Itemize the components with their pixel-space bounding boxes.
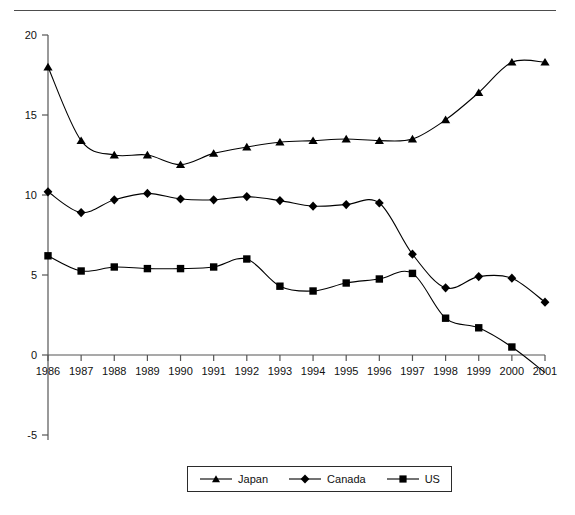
series-line-canada (48, 192, 545, 302)
data-point-marker (343, 279, 350, 286)
svg-text:1998: 1998 (433, 365, 457, 377)
data-point-marker (441, 116, 450, 124)
svg-text:1997: 1997 (400, 365, 424, 377)
svg-text:1986: 1986 (36, 365, 60, 377)
chart-figure: -505101520 19861987198819891990199119921… (0, 0, 575, 515)
data-point-marker (143, 189, 152, 198)
series-canada (44, 187, 550, 307)
svg-text:20: 20 (25, 29, 37, 41)
data-point-marker (441, 283, 450, 292)
data-point-marker (176, 194, 185, 203)
svg-text:0: 0 (31, 349, 37, 361)
line-chart-plot: -505101520 19861987198819891990199119921… (0, 0, 575, 515)
svg-text:1989: 1989 (135, 365, 159, 377)
x-axis-tick-labels: 1986198719881989199019911992199319941995… (36, 365, 557, 377)
data-series-group (43, 58, 549, 373)
diamond-marker-icon (288, 473, 322, 485)
svg-text:2000: 2000 (500, 365, 524, 377)
data-point-marker (409, 270, 416, 277)
svg-text:1993: 1993 (268, 365, 292, 377)
data-point-marker (442, 315, 449, 322)
data-point-marker (309, 202, 318, 211)
data-point-marker (242, 192, 251, 201)
legend-entry-japan: Japan (199, 473, 268, 485)
data-point-marker (77, 267, 84, 274)
data-point-marker (77, 208, 86, 217)
data-point-marker (209, 195, 218, 204)
data-point-marker (110, 195, 119, 204)
svg-text:2001: 2001 (533, 365, 557, 377)
data-point-marker (77, 136, 86, 144)
data-point-marker (44, 252, 51, 259)
legend-label-canada: Canada (327, 473, 366, 485)
data-point-marker (177, 265, 184, 272)
svg-text:5: 5 (31, 269, 37, 281)
data-point-marker (507, 274, 516, 283)
svg-text:1987: 1987 (69, 365, 93, 377)
svg-text:1995: 1995 (334, 365, 358, 377)
data-point-marker (507, 58, 516, 66)
series-line-japan (48, 60, 545, 165)
svg-text:1992: 1992 (235, 365, 259, 377)
triangle-marker-icon (199, 473, 233, 485)
legend-entry-us: US (386, 473, 440, 485)
svg-text:-5: -5 (27, 429, 37, 441)
data-point-marker (309, 287, 316, 294)
data-point-marker (474, 272, 483, 281)
data-point-marker (276, 283, 283, 290)
svg-text:1991: 1991 (201, 365, 225, 377)
data-point-marker (508, 343, 515, 350)
square-marker-icon (386, 473, 420, 485)
svg-text:1999: 1999 (466, 365, 490, 377)
data-point-marker (43, 63, 52, 71)
svg-text:1990: 1990 (168, 365, 192, 377)
data-point-marker (541, 298, 550, 307)
svg-text:15: 15 (25, 109, 37, 121)
data-point-marker (144, 265, 151, 272)
legend-entry-canada: Canada (288, 473, 366, 485)
data-point-marker (342, 200, 351, 209)
data-point-marker (243, 255, 250, 262)
legend-label-us: US (425, 473, 440, 485)
data-point-marker (475, 324, 482, 331)
series-japan (43, 58, 549, 168)
svg-text:1988: 1988 (102, 365, 126, 377)
data-point-marker (276, 196, 285, 205)
chart-legend: Japan Canada US (187, 466, 452, 492)
svg-text:10: 10 (25, 189, 37, 201)
svg-text:1996: 1996 (367, 365, 391, 377)
y-axis-tick-labels: -505101520 (25, 29, 37, 441)
data-point-marker (408, 135, 417, 143)
x-axis-ticks (48, 355, 545, 361)
data-point-marker (210, 263, 217, 270)
legend-label-japan: Japan (238, 473, 268, 485)
data-point-marker (111, 263, 118, 270)
data-point-marker (376, 275, 383, 282)
svg-text:1994: 1994 (301, 365, 325, 377)
